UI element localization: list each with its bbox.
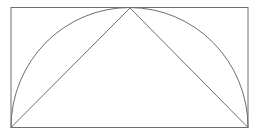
inscribed-triangle [11,8,248,128]
semicircle-arc [11,8,248,128]
bounding-rectangle [11,8,248,128]
diagram-canvas [0,0,260,136]
